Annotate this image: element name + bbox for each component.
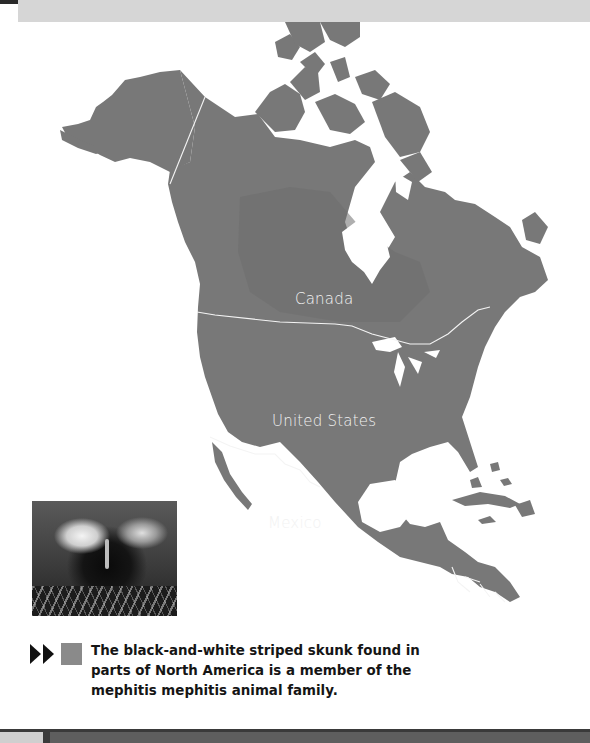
footer-band <box>50 732 590 743</box>
header-corner <box>0 0 18 4</box>
double-play-arrow-icon <box>30 644 56 664</box>
cuba <box>452 492 520 508</box>
alaska-landmass <box>62 70 195 172</box>
header-bar <box>18 0 590 22</box>
footer-tab <box>0 732 43 743</box>
grass-foreground <box>32 586 177 616</box>
map-label-united-states: United States <box>272 412 376 430</box>
legend-caption: The black-and-white striped skunk found … <box>91 641 431 701</box>
legend-swatch <box>61 643 82 665</box>
skunk-photo <box>32 501 177 616</box>
skunk-stripe <box>105 539 109 569</box>
footer-bar <box>0 729 590 743</box>
map-label-canada: Canada <box>295 290 353 308</box>
baja-california <box>212 442 252 510</box>
map-label-mexico: Mexico <box>268 514 322 532</box>
